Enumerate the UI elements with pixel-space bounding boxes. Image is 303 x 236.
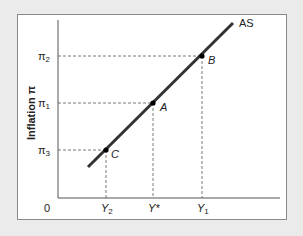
origin-label: 0: [44, 202, 50, 214]
as-curve-label: AS: [239, 17, 254, 29]
x-tick-y2: Y2: [101, 202, 113, 216]
x-tick-y1: Y1: [197, 202, 209, 216]
y-tick-pi2: π2: [38, 50, 51, 64]
y-tick-pi3: π3: [38, 144, 51, 158]
point-b-label: B: [208, 54, 215, 66]
point-a-label: A: [159, 101, 167, 113]
point-b-marker: [199, 53, 204, 58]
point-c-marker: [103, 147, 108, 152]
y-axis-label: Inflation π: [25, 85, 37, 140]
as-chart: B A C AS π2 π1 π3 0 Y2 Y* Y1 Inflation π: [0, 0, 303, 236]
as-curve: [88, 23, 233, 167]
point-a-marker: [150, 100, 155, 105]
point-c-label: C: [111, 148, 119, 160]
x-tick-ystar: Y*: [148, 202, 160, 214]
y-tick-pi1: π1: [38, 97, 51, 111]
